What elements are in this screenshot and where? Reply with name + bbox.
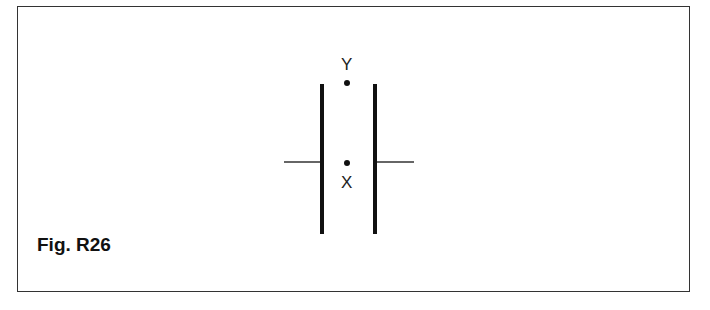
point-x-dot bbox=[344, 160, 350, 166]
point-y-label: Y bbox=[341, 55, 352, 75]
point-y-dot bbox=[344, 80, 350, 86]
figure-caption: Fig. R26 bbox=[37, 234, 111, 256]
point-x-label: X bbox=[341, 173, 352, 193]
capacitor-diagram bbox=[0, 0, 710, 310]
